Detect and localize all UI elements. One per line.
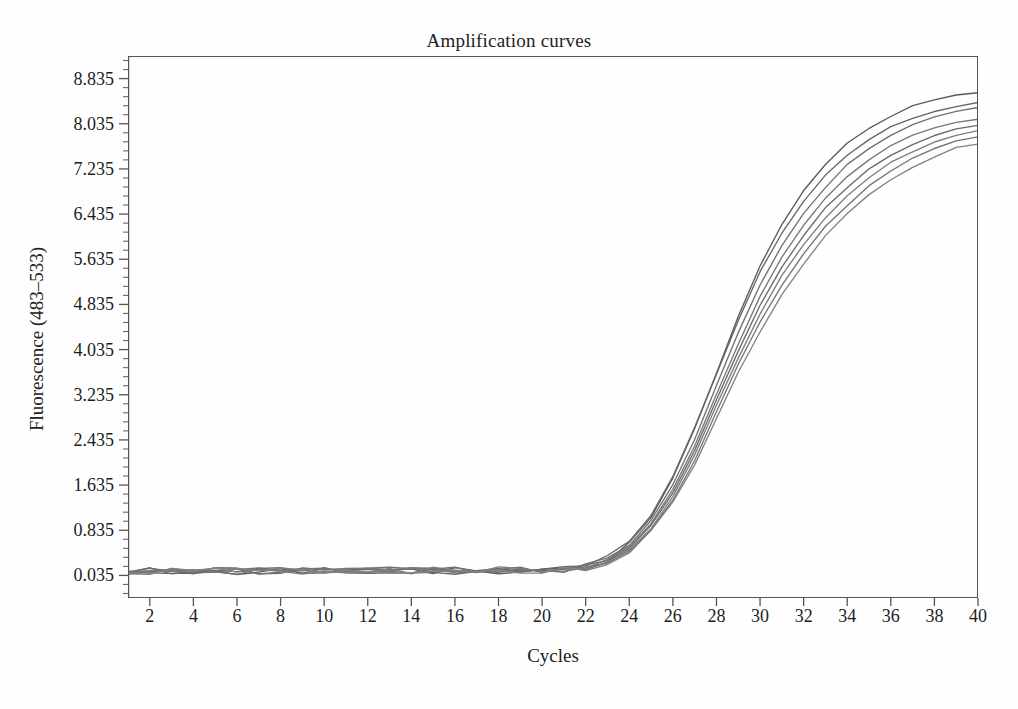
x-tick-label: 4 — [189, 606, 198, 627]
x-tick-label: 30 — [751, 606, 769, 627]
x-tick-label: 36 — [882, 606, 900, 627]
plot-area — [128, 56, 978, 598]
x-tick-label: 8 — [276, 606, 285, 627]
y-tick-label: 4.035 — [74, 339, 115, 360]
x-tick-label: 32 — [795, 606, 813, 627]
y-tick-label: 3.235 — [74, 384, 115, 405]
y-tick-label: 6.435 — [74, 204, 115, 225]
chart-title: Amplification curves — [0, 30, 1018, 52]
x-tick-label: 26 — [664, 606, 682, 627]
y-tick-label: 1.635 — [74, 475, 115, 496]
y-axis-label: Fluorescence (483–533) — [26, 189, 48, 489]
x-tick-label: 34 — [838, 606, 856, 627]
y-axis-tick-labels: 0.0350.8351.6352.4353.2354.0354.8355.635… — [52, 56, 114, 598]
amplification-curves-figure: Amplification curves Fluorescence (483–5… — [0, 0, 1018, 709]
x-tick-label: 38 — [925, 606, 943, 627]
y-tick-label: 2.435 — [74, 429, 115, 450]
y-tick-label: 5.635 — [74, 249, 115, 270]
x-axis-label: Cycles — [128, 645, 978, 667]
x-tick-label: 18 — [490, 606, 508, 627]
x-tick-label: 20 — [533, 606, 551, 627]
y-tick-label: 4.835 — [74, 294, 115, 315]
x-tick-label: 2 — [145, 606, 154, 627]
x-tick-label: 12 — [359, 606, 377, 627]
x-tick-label: 22 — [577, 606, 595, 627]
x-tick-label: 10 — [315, 606, 333, 627]
plot-frame-border — [128, 56, 978, 598]
y-tick-label: 8.035 — [74, 113, 115, 134]
y-tick-label: 0.035 — [74, 565, 115, 586]
y-tick-label: 8.835 — [74, 68, 115, 89]
x-tick-label: 6 — [232, 606, 241, 627]
y-tick-label: 7.235 — [74, 158, 115, 179]
x-tick-label: 28 — [707, 606, 725, 627]
x-tick-label: 14 — [402, 606, 420, 627]
x-tick-label: 24 — [620, 606, 638, 627]
x-tick-label: 40 — [969, 606, 987, 627]
x-tick-label: 16 — [446, 606, 464, 627]
y-tick-label: 0.835 — [74, 520, 115, 541]
x-axis-tick-labels: 246810121416182022242628303234363840 — [128, 606, 978, 632]
